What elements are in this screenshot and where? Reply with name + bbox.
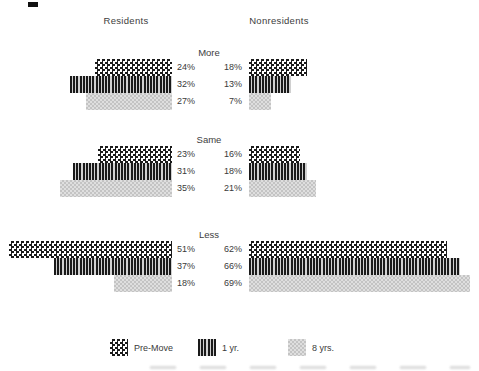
grouped-bar-chart-figure: Residents Nonresidents More24%32%27%18%1…	[0, 0, 479, 371]
group-label-less: Less	[179, 229, 239, 240]
bar-nonresidents-more-8-yrs	[249, 93, 271, 110]
group-label-same: Same	[179, 134, 239, 145]
column-header-residents: Residents	[71, 15, 181, 26]
value-label-residents-more-1-yr: 32%	[177, 76, 205, 93]
bar-nonresidents-less-8-yrs	[249, 275, 470, 292]
scan-artifact-mark	[28, 2, 38, 7]
bar-nonresidents-more-pre-move	[249, 59, 307, 76]
value-label-nonresidents-less-8-yrs: 69%	[210, 275, 242, 292]
value-label-nonresidents-less-pre-move: 62%	[210, 241, 242, 258]
pre-move-pattern-swatch	[110, 339, 128, 356]
bar-nonresidents-less-1-yr	[249, 258, 460, 275]
value-label-residents-less-8-yrs: 18%	[177, 275, 205, 292]
value-label-residents-less-pre-move: 51%	[177, 241, 205, 258]
value-label-residents-more-pre-move: 24%	[177, 59, 205, 76]
value-label-residents-more-8-yrs: 27%	[177, 93, 205, 110]
bar-residents-same-8-yrs	[60, 180, 172, 197]
value-label-residents-same-8-yrs: 35%	[177, 180, 205, 197]
legend-label-1-yr: 1 yr.	[222, 343, 239, 353]
bar-residents-less-8-yrs	[114, 275, 172, 292]
bar-residents-more-1-yr	[70, 76, 172, 93]
value-label-nonresidents-same-1-yr: 18%	[210, 163, 242, 180]
bar-nonresidents-same-1-yr	[249, 163, 307, 180]
value-label-nonresidents-more-pre-move: 18%	[210, 59, 242, 76]
value-label-residents-less-1-yr: 37%	[177, 258, 205, 275]
value-label-nonresidents-more-1-yr: 13%	[210, 76, 242, 93]
value-label-nonresidents-same-8-yrs: 21%	[210, 180, 242, 197]
bar-residents-more-pre-move	[95, 59, 172, 76]
column-header-nonresidents: Nonresidents	[224, 15, 334, 26]
legend-item-8-yrs: 8 yrs.	[288, 339, 334, 356]
legend-item-1-yr: 1 yr.	[198, 339, 239, 356]
value-label-nonresidents-less-1-yr: 66%	[210, 258, 242, 275]
eight-yrs-pattern-swatch	[288, 339, 306, 356]
group-label-more: More	[179, 47, 239, 58]
bar-nonresidents-same-8-yrs	[249, 180, 316, 197]
legend-item-pre-move: Pre-Move	[110, 339, 173, 356]
bar-nonresidents-more-1-yr	[249, 76, 291, 93]
one-yr-pattern-swatch	[198, 339, 216, 356]
value-label-residents-same-1-yr: 31%	[177, 163, 205, 180]
value-label-residents-same-pre-move: 23%	[177, 146, 205, 163]
bar-residents-same-pre-move	[98, 146, 172, 163]
bar-residents-less-pre-move	[9, 241, 172, 258]
bar-residents-same-1-yr	[73, 163, 172, 180]
bar-nonresidents-same-pre-move	[249, 146, 300, 163]
legend-label-pre-move: Pre-Move	[134, 343, 173, 353]
value-label-nonresidents-more-8-yrs: 7%	[210, 93, 242, 110]
bar-nonresidents-less-pre-move	[249, 241, 447, 258]
bar-residents-more-8-yrs	[86, 93, 172, 110]
value-label-nonresidents-same-pre-move: 16%	[210, 146, 242, 163]
legend-label-8-yrs: 8 yrs.	[312, 343, 334, 353]
bar-residents-less-1-yr	[54, 258, 172, 275]
scan-artifact-smudge	[150, 366, 470, 369]
